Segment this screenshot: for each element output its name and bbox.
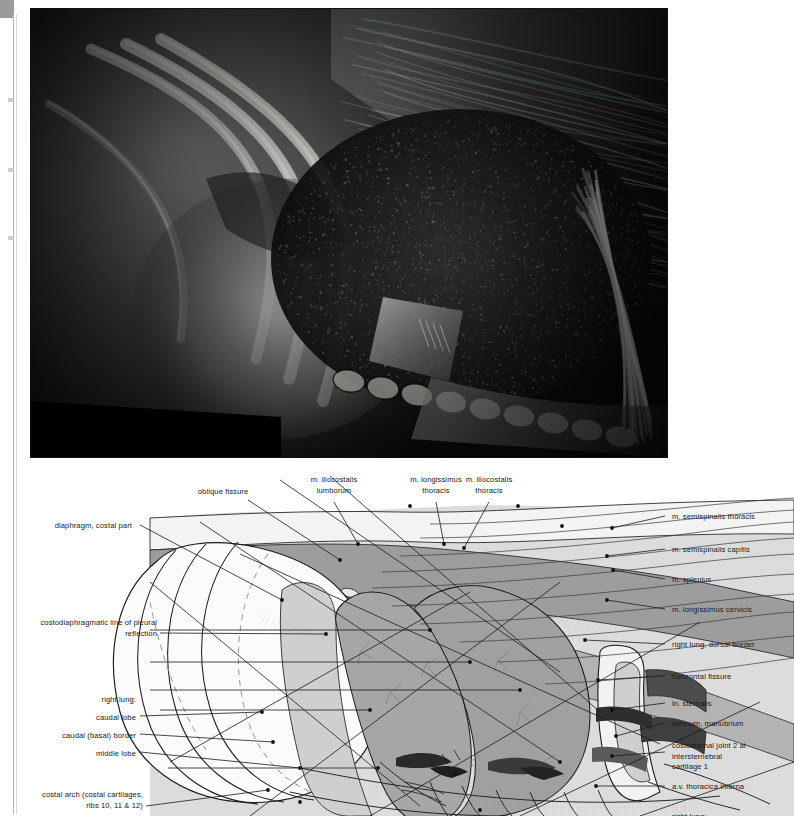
label-middle-lobe: middle lobe <box>0 749 136 760</box>
label-horizontal-fissure: horizontal fissure <box>672 672 790 683</box>
label-caudal-basal-border: caudal (basal) border <box>0 731 136 742</box>
label-m-semispinalis-thoracis: m. semispinalis thoracis <box>672 512 790 523</box>
label-ln-sternalis: ln. sternalis <box>672 699 790 710</box>
label-sternum-manubrium: sternum, manubrium <box>672 719 790 730</box>
label-diaphragm-costal-part: diaphragm, costal part <box>0 521 132 532</box>
label-right-lung-heading: right lung: <box>0 695 136 706</box>
label-m-longissimus-cervicis: m. longissimus cervicis <box>672 605 790 616</box>
label-m-splenius: m. splenius <box>672 575 790 586</box>
label-m-iliocostalis-thoracis: m. iliocostalis thoracis <box>419 475 559 496</box>
scan-edge-corner <box>0 0 14 18</box>
label-right-lung-dorsal-border: right lung, dorsal border <box>672 640 790 651</box>
label-costodiaphragmatic-line: costodiaphragmatic line of pleural refle… <box>0 618 157 639</box>
label-av-thoracica-interna: a.v. thoracica interna <box>672 782 790 793</box>
scan-edge-tick <box>8 98 13 102</box>
label-right-lung-cropped: right lung: <box>672 812 790 816</box>
dissection-photograph <box>31 9 667 457</box>
label-costal-arch: costal arch (costal cartilages, ribs 10,… <box>0 790 143 811</box>
scan-edge-tick <box>8 236 13 240</box>
scan-edge-tick <box>8 168 13 172</box>
atlas-page: oblique fissurem. iliocostalis lumborumm… <box>0 0 794 816</box>
label-m-semispinalis-capitis: m. semispinalis capitis <box>672 545 790 556</box>
label-costosternal-joint-2: costosternal joint 2 at intersternebral … <box>672 741 790 773</box>
label-caudal-lobe: caudal lobe <box>0 713 136 724</box>
